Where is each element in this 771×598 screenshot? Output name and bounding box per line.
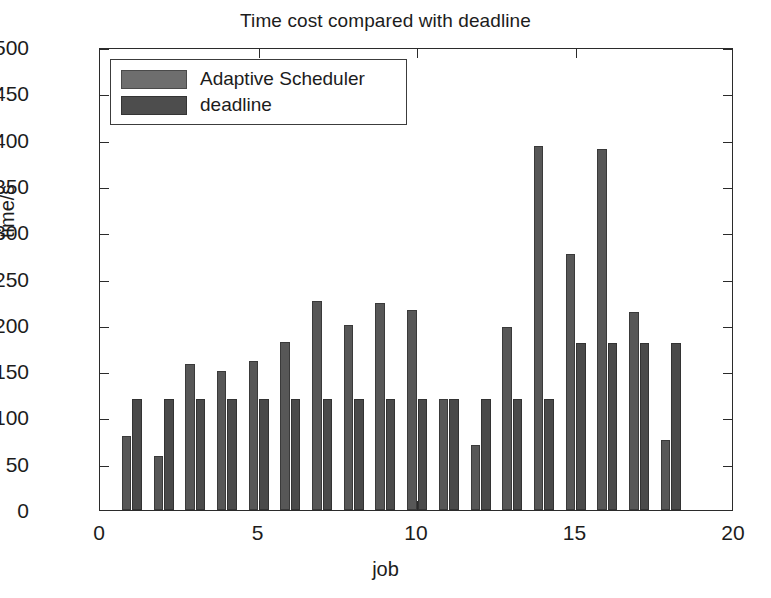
y-tick-right-50 xyxy=(723,466,732,467)
bar-adaptive-scheduler-job-8 xyxy=(344,325,354,510)
y-tick-right-400 xyxy=(723,142,732,143)
bar-adaptive-scheduler-job-13 xyxy=(502,327,512,510)
legend-label-deadline: deadline xyxy=(200,94,272,116)
y-tick-100 xyxy=(100,419,109,420)
bar-deadline-job-13 xyxy=(513,399,523,510)
y-tick-label-200: 200 xyxy=(0,315,29,336)
bar-adaptive-scheduler-job-1 xyxy=(122,436,132,510)
bar-adaptive-scheduler-job-7 xyxy=(312,301,322,510)
x-tick-label-5: 5 xyxy=(228,522,288,543)
bar-adaptive-scheduler-job-11 xyxy=(439,399,449,510)
bar-deadline-job-4 xyxy=(227,399,237,510)
bar-deadline-job-6 xyxy=(291,399,301,510)
x-tick-10 xyxy=(417,501,418,510)
bar-adaptive-scheduler-job-6 xyxy=(280,342,290,510)
x-tick-top-15 xyxy=(576,49,577,58)
bar-adaptive-scheduler-job-9 xyxy=(375,303,385,510)
legend-item-deadline: deadline xyxy=(121,92,394,118)
x-tick-top-10 xyxy=(417,49,418,58)
y-tick-label-300: 300 xyxy=(0,222,29,243)
bar-adaptive-scheduler-job-5 xyxy=(249,361,259,510)
chart-figure: Time cost compared with deadline time/s … xyxy=(0,0,771,598)
y-tick-150 xyxy=(100,373,109,374)
legend-item-adaptive-scheduler: Adaptive Scheduler xyxy=(121,66,394,92)
bar-deadline-job-5 xyxy=(259,399,269,510)
x-tick-15 xyxy=(576,501,577,510)
legend-label-adaptive-scheduler: Adaptive Scheduler xyxy=(200,68,365,90)
y-tick-right-100 xyxy=(723,419,732,420)
y-tick-450 xyxy=(100,95,109,96)
y-tick-right-450 xyxy=(723,95,732,96)
bar-adaptive-scheduler-job-3 xyxy=(185,364,195,510)
bar-adaptive-scheduler-job-14 xyxy=(534,146,544,510)
chart-legend: Adaptive Scheduler deadline xyxy=(110,59,407,125)
x-tick-label-10: 10 xyxy=(386,522,446,543)
bar-deadline-job-7 xyxy=(323,399,333,510)
legend-swatch-icon-adaptive-scheduler xyxy=(121,70,187,89)
bar-deadline-job-12 xyxy=(481,399,491,510)
bar-deadline-job-16 xyxy=(608,343,618,510)
bar-adaptive-scheduler-job-12 xyxy=(471,445,481,510)
bar-deadline-job-1 xyxy=(132,399,142,510)
x-tick-label-0: 0 xyxy=(69,522,129,543)
y-tick-label-450: 450 xyxy=(0,83,29,104)
y-tick-50 xyxy=(100,466,109,467)
y-tick-300 xyxy=(100,234,109,235)
plot-area: Adaptive Scheduler deadline xyxy=(99,48,733,511)
bar-deadline-job-9 xyxy=(386,399,396,510)
y-tick-right-200 xyxy=(723,327,732,328)
y-tick-350 xyxy=(100,188,109,189)
bar-deadline-job-3 xyxy=(196,399,206,510)
bar-deadline-job-14 xyxy=(544,399,554,510)
y-tick-400 xyxy=(100,142,109,143)
bar-deadline-job-10 xyxy=(418,399,428,510)
bar-adaptive-scheduler-job-10 xyxy=(407,310,417,510)
legend-swatch-icon-deadline xyxy=(121,96,187,115)
bar-deadline-job-17 xyxy=(640,343,650,510)
bar-adaptive-scheduler-job-15 xyxy=(566,254,576,510)
bar-deadline-job-11 xyxy=(449,399,459,510)
y-tick-label-400: 400 xyxy=(0,130,29,151)
y-tick-250 xyxy=(100,281,109,282)
y-tick-right-300 xyxy=(723,234,732,235)
bar-deadline-job-18 xyxy=(671,343,681,510)
y-tick-label-0: 0 xyxy=(17,500,29,521)
y-tick-label-250: 250 xyxy=(0,269,29,290)
bar-adaptive-scheduler-job-17 xyxy=(629,312,639,510)
y-tick-right-150 xyxy=(723,373,732,374)
bar-deadline-job-2 xyxy=(164,399,174,510)
x-tick-label-15: 15 xyxy=(545,522,605,543)
bar-deadline-job-15 xyxy=(576,343,586,510)
bar-adaptive-scheduler-job-2 xyxy=(154,456,164,510)
y-tick-label-150: 150 xyxy=(0,361,29,382)
y-tick-label-350: 350 xyxy=(0,176,29,197)
y-tick-label-500: 500 xyxy=(0,37,29,58)
y-tick-500 xyxy=(100,49,109,50)
y-tick-label-50: 50 xyxy=(6,454,29,475)
y-tick-200 xyxy=(100,327,109,328)
y-tick-label-100: 100 xyxy=(0,407,29,428)
bar-adaptive-scheduler-job-16 xyxy=(597,149,607,510)
x-tick-top-5 xyxy=(259,49,260,58)
x-tick-label-20: 20 xyxy=(703,522,763,543)
chart-title: Time cost compared with deadline xyxy=(0,10,771,32)
x-tick-5 xyxy=(259,501,260,510)
bar-adaptive-scheduler-job-4 xyxy=(217,371,227,510)
bar-deadline-job-8 xyxy=(354,399,364,510)
y-tick-right-500 xyxy=(723,49,732,50)
bar-adaptive-scheduler-job-18 xyxy=(661,440,671,510)
x-axis-label: job xyxy=(0,558,771,581)
y-tick-right-250 xyxy=(723,281,732,282)
y-tick-right-350 xyxy=(723,188,732,189)
